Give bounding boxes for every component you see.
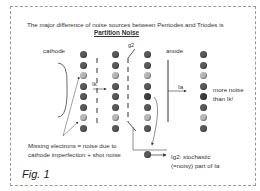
ig2-electron <box>144 151 151 158</box>
diagram-lines <box>0 0 260 191</box>
